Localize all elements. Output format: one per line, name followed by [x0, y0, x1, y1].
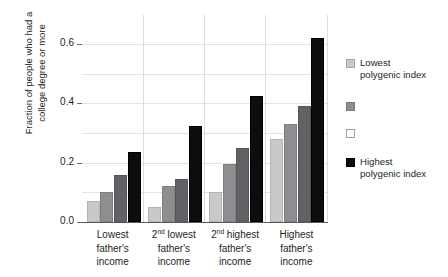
bar	[270, 139, 283, 222]
x-axis-tick-label-line: income	[253, 255, 339, 269]
legend-swatch-white	[346, 129, 355, 138]
bar	[189, 126, 202, 223]
bar	[298, 106, 311, 222]
y-axis-tick-mark	[77, 44, 82, 45]
bar	[114, 175, 127, 223]
legend-swatch-light-gray	[346, 59, 355, 68]
bar	[209, 192, 222, 222]
legend-item[interactable]: Highest polygenic index	[346, 156, 426, 181]
legend-item[interactable]: Lowest polygenic index	[346, 57, 426, 82]
bar	[175, 179, 188, 222]
plot-area	[82, 29, 327, 222]
gridline-vertical	[204, 15, 205, 222]
legend-label: Highest polygenic index	[360, 156, 426, 181]
bar	[100, 192, 113, 222]
legend-swatch-black	[346, 158, 355, 167]
bar	[148, 207, 161, 222]
y-axis-tick-label: 0.4	[34, 96, 74, 107]
bar	[250, 96, 263, 222]
y-axis-tick-mark	[77, 163, 82, 164]
bar	[162, 186, 175, 222]
x-axis-tick-label: Highestfather'sincome	[253, 228, 339, 269]
y-axis-tick-label: 0.2	[34, 156, 74, 167]
bar	[284, 124, 297, 222]
bar	[311, 38, 324, 222]
y-axis-tick-mark	[77, 103, 82, 104]
bar	[87, 201, 100, 222]
x-axis-tick-label-line: Highest	[253, 228, 339, 242]
bar-chart-figure: Fraction of people who had a college deg…	[0, 0, 448, 277]
legend-label: Lowest polygenic index	[360, 57, 426, 82]
y-axis-tick-label: 0.0	[34, 215, 74, 226]
bar	[236, 148, 249, 222]
legend-item[interactable]	[346, 100, 360, 111]
gridline-vertical	[143, 15, 144, 222]
y-axis-title: Fraction of people who had a college deg…	[22, 0, 48, 158]
y-axis-tick-mark	[77, 222, 82, 223]
y-axis-title-line1: Fraction of people who had a	[23, 12, 34, 135]
y-axis-tick-label: 0.6	[34, 37, 74, 48]
bar	[223, 164, 236, 222]
x-axis-tick-label-line: father's	[253, 242, 339, 256]
bar	[128, 152, 141, 222]
x-axis-line	[82, 222, 328, 223]
legend-item[interactable]	[346, 127, 360, 138]
legend-swatch-medium-gray	[346, 102, 355, 111]
gridline-vertical	[327, 15, 328, 222]
gridline-vertical	[265, 15, 266, 222]
